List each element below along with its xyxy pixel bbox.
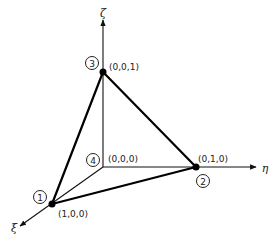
xi-label: ξ [11,222,18,235]
node-3-dot [100,69,107,76]
node-2-badge: 2 [197,175,210,188]
node-1-dot [49,201,56,208]
node-2-dot [193,164,200,171]
node-1-coord: (1,0,0) [58,209,88,219]
edge-3-1 [52,72,103,204]
svg-text:2: 2 [200,177,206,187]
svg-text:4: 4 [90,156,96,166]
node-2-coord: (0,1,0) [198,154,228,164]
svg-text:1: 1 [37,193,43,203]
node-3-badge: 3 [86,57,99,70]
edge-2-3 [103,72,196,167]
node-4-coord: (0,0,0) [108,154,138,164]
tetrahedron-diagram: ζ η ξ 1 2 3 4 (1,0,0) (0,1,0) (0,0,1) (0… [0,0,280,242]
node-1-badge: 1 [34,191,47,204]
svg-text:3: 3 [89,59,95,69]
edge-1-2 [52,167,196,204]
eta-label: η [262,162,269,175]
node-3-coord: (0,0,1) [109,62,139,72]
node-4-badge: 4 [87,154,100,167]
zeta-label: ζ [100,7,107,20]
